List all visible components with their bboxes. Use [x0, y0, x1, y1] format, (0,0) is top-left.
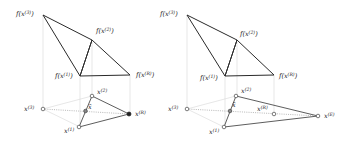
label-f-x2: f(x(2)) — [239, 30, 258, 39]
face-expanded-simplex — [225, 40, 274, 76]
expansion-line — [187, 109, 318, 116]
label-f-x1: f(x(1)) — [199, 74, 218, 83]
point-x2 — [90, 94, 94, 98]
guide-base-2 — [187, 96, 236, 109]
label-x2: x(2) — [97, 88, 107, 97]
point-xbar — [84, 109, 88, 113]
face-old-simplex — [187, 15, 237, 76]
label-f-x3: f(x(3)) — [15, 10, 34, 19]
label-xR: x(R) — [257, 105, 268, 114]
point-x3 — [185, 107, 189, 111]
point-xbar — [228, 109, 232, 113]
guide-base-1 — [43, 109, 80, 127]
label-f-x3: f(x(3)) — [159, 10, 178, 19]
label-x3: x(3) — [168, 105, 178, 114]
point-xR — [272, 112, 276, 116]
panel-expansion: f(x(3)) f(x(2)) f(x(1)) f(x(R)) x(3) x(2… — [159, 10, 335, 137]
label-x2: x(2) — [241, 87, 251, 96]
point-xE — [316, 114, 320, 118]
guide-base-1 — [187, 109, 224, 127]
label-f-x1: f(x(1)) — [54, 72, 73, 81]
label-f-x2: f(x(2)) — [95, 27, 114, 36]
label-xbar: x̄ — [232, 101, 236, 109]
point-x3 — [41, 107, 45, 111]
nelder-mead-diagram: f(x(3)) f(x(2)) f(x(1)) f(x(R)) x(3) x(2… — [0, 0, 351, 145]
label-xbar: x̄ — [88, 103, 92, 111]
face-reflected-simplex — [80, 40, 130, 76]
label-f-xR: f(x(R)) — [278, 72, 298, 81]
label-xR: x(R) — [135, 110, 146, 119]
label-x1: x(1) — [209, 128, 219, 137]
label-xE: x(E) — [324, 112, 335, 121]
label-x1: x(1) — [64, 127, 74, 136]
label-f-xR: f(x(R)) — [135, 71, 155, 80]
point-x1 — [77, 125, 81, 129]
label-x3: x(3) — [24, 105, 34, 114]
point-x1 — [222, 125, 226, 129]
face-old-simplex — [43, 15, 92, 76]
guide-base-2 — [43, 96, 92, 109]
point-xR — [127, 112, 131, 116]
panel-reflection: f(x(3)) f(x(2)) f(x(1)) f(x(R)) x(3) x(2… — [15, 10, 155, 136]
point-x2 — [234, 94, 238, 98]
